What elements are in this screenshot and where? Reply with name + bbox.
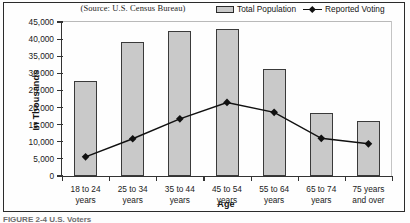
bar-swatch-icon [216, 6, 234, 13]
x-axis-tick [62, 176, 63, 181]
y-axis-tick-label: 0 [49, 171, 54, 181]
reported-voting-line [86, 102, 369, 156]
x-axis-tick-label-line: 65 to 74 [294, 184, 348, 195]
y-axis-tick-label: 30,000 [29, 68, 54, 78]
legend-item-total-population: Total Population [216, 4, 296, 14]
x-axis-tick [156, 176, 157, 181]
line-marker-3 [176, 115, 184, 123]
x-axis-tick-label-line: 25 to 34 [106, 184, 160, 195]
line-marker-icon [303, 6, 322, 13]
legend-item-reported-voting: Reported Voting [303, 4, 385, 14]
x-axis-tick [251, 176, 252, 181]
y-axis-tick-label: 45,000 [29, 17, 54, 27]
line-marker-1 [82, 153, 90, 161]
y-axis-tick-label: 40,000 [29, 34, 54, 44]
chart-legend: Total Population Reported Voting [216, 3, 385, 15]
y-axis-tick-label: 20,000 [29, 103, 54, 113]
y-axis-tick-label: 25,000 [29, 85, 54, 95]
x-axis-tick [298, 176, 299, 181]
line-marker-6 [317, 135, 325, 143]
source-note: (Source: U.S. Census Bureau) [58, 3, 208, 13]
x-axis-tick [109, 176, 110, 181]
reported-voting-markers [82, 99, 372, 161]
line-series [62, 22, 392, 176]
legend-label-reported-voting: Reported Voting [325, 4, 385, 14]
legend-label-total-population: Total Population [237, 4, 296, 14]
line-marker-7 [365, 140, 373, 148]
x-axis-tick [345, 176, 346, 181]
line-marker-4 [223, 99, 231, 107]
x-axis-tick [392, 176, 393, 181]
figure-container: (Source: U.S. Census Bureau) Total Popul… [0, 0, 410, 223]
x-axis-tick-label-line: 18 to 24 [59, 184, 113, 195]
x-axis-tick-label-line: 55 to 64 [247, 184, 301, 195]
x-axis-tick [203, 176, 204, 181]
line-marker-2 [129, 135, 137, 143]
figure-caption: FIGURE 2-4 U.S. Voters [3, 215, 405, 223]
x-axis-tick-label-line: 35 to 44 [153, 184, 207, 195]
line-marker-5 [270, 109, 278, 117]
y-axis-tick-label: 15,000 [29, 120, 54, 130]
y-axis-tick-label: 5,000 [33, 154, 54, 164]
x-axis-tick-label-line: 75 years [341, 184, 395, 195]
plot-area: 05,00010,00015,00020,00025,00030,00035,0… [61, 22, 392, 177]
x-axis-title: Age [61, 199, 391, 209]
x-axis-tick-label-line: 45 to 54 [200, 184, 254, 195]
y-axis-tick-label: 35,000 [29, 51, 54, 61]
y-axis-tick-label: 10,000 [29, 137, 54, 147]
